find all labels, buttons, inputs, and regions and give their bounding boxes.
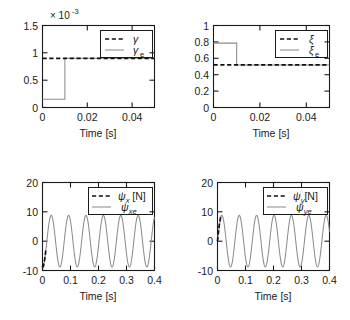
plot-xi: 1 0.8 0.6 0.4 0.2 0 0 0.02 0.04 Time [s] [175, 0, 350, 160]
psiy-series-estimate [218, 215, 330, 267]
panel-psix: 20 10 0 -10 0 0.1 0.2 0.3 0.4 [0, 160, 175, 320]
plot-gamma: × 10 -3 1.5 1 0.5 0 [0, 0, 175, 160]
gamma-series-estimate [43, 58, 155, 99]
psiy-xtick-0_4: 0.4 [322, 274, 337, 286]
xi-x-ticks: 0 0.02 0.04 [211, 26, 317, 124]
xi-xtick-0_02: 0.02 [250, 111, 271, 123]
psix-xlabel: Time [s] [80, 290, 117, 302]
psiy-ytick-10: 10 [201, 206, 213, 218]
panel-gamma: × 10 -3 1.5 1 0.5 0 [0, 0, 175, 160]
gamma-ytick-1_5: 1.5 [23, 20, 38, 32]
gamma-legend-label-estimate: γ [133, 44, 139, 56]
psiy-xtick-0_2: 0.2 [266, 274, 281, 286]
gamma-xtick-0_02: 0.02 [77, 111, 98, 123]
psiy-xtick-0_1: 0.1 [238, 274, 253, 286]
gamma-xtick-0_04: 0.04 [122, 111, 143, 123]
gamma-multiplier-text: × 10 [50, 10, 70, 21]
xi-ytick-1: 1 [203, 20, 209, 32]
gamma-exponent-label: × 10 -3 [50, 7, 79, 21]
gamma-xtick-0: 0 [40, 111, 46, 123]
psix-xtick-0: 0 [40, 274, 46, 286]
xi-ytick-0_6: 0.6 [194, 52, 209, 64]
xi-ytick-0: 0 [203, 102, 209, 114]
xi-ytick-0_2: 0.2 [194, 85, 209, 97]
gamma-ytick-0_5: 0.5 [23, 74, 38, 86]
xi-xtick-0_04: 0.04 [296, 111, 317, 123]
psiy-ytick-0: 0 [207, 235, 213, 247]
panel-xi: 1 0.8 0.6 0.4 0.2 0 0 0.02 0.04 Time [s] [175, 0, 350, 160]
psix-xtick-0_2: 0.2 [91, 274, 106, 286]
gamma-x-ticks: 0 0.02 0.04 [40, 26, 143, 124]
psix-ytick-20: 20 [26, 177, 38, 189]
psiy-ytick-20: 20 [201, 177, 213, 189]
xi-ytick-0_8: 0.8 [194, 36, 209, 48]
psix-xtick-0_1: 0.1 [63, 274, 78, 286]
xi-legend: ξ ξ e [276, 31, 328, 59]
psix-legend: ψx [N] ψxe [89, 188, 153, 216]
gamma-ytick-0: 0 [32, 102, 38, 114]
psiy-xlabel: Time [s] [255, 290, 292, 302]
psix-xtick-0_4: 0.4 [147, 274, 162, 286]
xi-ytick-0_4: 0.4 [194, 69, 209, 81]
psiy-ytick-neg10: -10 [198, 265, 213, 277]
psix-series-estimate [43, 215, 155, 267]
psix-ytick-0: 0 [32, 235, 38, 247]
gamma-ytick-1: 1 [32, 47, 38, 59]
xi-legend-sub-estimate: e [315, 50, 319, 59]
xi-xtick-0: 0 [211, 111, 217, 123]
xi-xlabel: Time [s] [253, 127, 290, 139]
plot-psix: 20 10 0 -10 0 0.1 0.2 0.3 0.4 [0, 160, 175, 320]
plot-psiy: 20 10 0 -10 0 0.1 0.2 0.3 0.4 [175, 160, 350, 320]
gamma-legend-sub-estimate: e [140, 50, 144, 59]
gamma-xlabel: Time [s] [80, 127, 117, 139]
psix-xtick-0_3: 0.3 [119, 274, 134, 286]
psix-ytick-neg10: -10 [23, 265, 38, 277]
gamma-legend: γ γ e [101, 31, 153, 59]
psiy-xtick-0_3: 0.3 [294, 274, 309, 286]
psiy-xtick-0: 0 [215, 274, 221, 286]
figure-container: × 10 -3 1.5 1 0.5 0 [0, 0, 350, 320]
psix-ytick-10: 10 [26, 206, 38, 218]
gamma-multiplier-exponent: -3 [72, 7, 79, 16]
psiy-legend: ψy[N] ψye [264, 188, 328, 216]
panel-psiy: 20 10 0 -10 0 0.1 0.2 0.3 0.4 [175, 160, 350, 320]
